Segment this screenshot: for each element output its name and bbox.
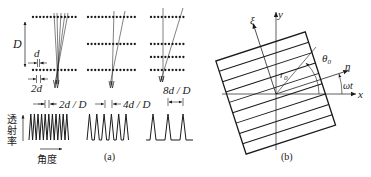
grating-dot	[164, 43, 166, 45]
grating-dot	[175, 43, 177, 45]
panel-b: x y ξ η r0 θ0 ωt (b)	[208, 0, 363, 163]
transmission-curve-2	[87, 114, 129, 140]
grating-dot	[116, 16, 118, 18]
transmission-curves	[29, 114, 193, 140]
grating-dot	[153, 16, 155, 18]
grating-dot	[161, 43, 163, 45]
grating-dot	[171, 16, 173, 18]
label-omega-t: ωt	[343, 80, 353, 91]
grating-dot	[179, 43, 181, 45]
grating-line	[236, 94, 325, 123]
grating-dot	[153, 56, 155, 58]
grating-dot	[43, 16, 45, 18]
label-period-4d-D: 4d / D	[123, 98, 151, 110]
grating-dot	[94, 16, 96, 18]
grating-dot	[150, 56, 152, 58]
grating-dot	[108, 16, 110, 18]
label-xi: ξ	[250, 14, 255, 27]
grating-dot	[105, 43, 107, 45]
panel-a: D d 2d	[6, 8, 194, 165]
grating-dot	[150, 43, 152, 45]
rays-set-2	[109, 11, 125, 88]
grating-dot	[175, 56, 177, 58]
grating-dot	[87, 69, 89, 71]
label-x: x	[357, 88, 363, 100]
grating-dot	[157, 69, 159, 71]
label-eta: η	[345, 60, 350, 72]
grating-dot	[108, 69, 110, 71]
grating-dot	[168, 69, 170, 71]
grating-dot	[164, 69, 166, 71]
grating-dot	[119, 69, 121, 71]
grating-dot	[94, 69, 96, 71]
grating-dot	[74, 16, 76, 18]
grating-dot	[101, 69, 103, 71]
grating-dot	[126, 16, 128, 18]
label-D: D	[12, 37, 22, 51]
grating-dot	[153, 43, 155, 45]
rays-set-1	[54, 13, 69, 88]
grating-dot	[182, 16, 184, 18]
grating-dot	[134, 16, 136, 18]
grating-dot	[168, 16, 170, 18]
grating-dot	[150, 16, 152, 18]
grating-dot	[179, 69, 181, 71]
grating-dot	[164, 56, 166, 58]
d-spacing-arrow	[28, 59, 47, 67]
grating-dot	[35, 69, 37, 71]
grating-dot	[71, 16, 73, 18]
grating-dot	[119, 43, 121, 45]
grating-dot	[182, 69, 184, 71]
grating-dot	[164, 16, 166, 18]
omega-t-arc	[339, 74, 342, 94]
grating-dot	[71, 69, 73, 71]
grating-dot	[101, 43, 103, 45]
grating-dot	[126, 69, 128, 71]
grating-dot	[74, 69, 76, 71]
grating-dot	[39, 69, 41, 71]
grating-dot	[130, 16, 132, 18]
grating-dot	[150, 69, 152, 71]
grating-dot	[171, 69, 173, 71]
grating-dot	[32, 69, 34, 71]
grating-dot	[98, 69, 100, 71]
grating-dot	[182, 56, 184, 58]
grating-dot	[60, 69, 62, 71]
grating-dot	[87, 16, 89, 18]
label-d: d	[34, 47, 40, 59]
grating-line	[233, 84, 322, 113]
grating-dot	[153, 69, 155, 71]
grating-dot	[90, 43, 92, 45]
label-2d: 2d	[31, 82, 43, 94]
grating-dot	[161, 69, 163, 71]
transmission-curve-3	[146, 114, 193, 140]
grating-dot	[179, 56, 181, 58]
grating-dot	[157, 56, 159, 58]
grating-dot	[119, 16, 121, 18]
grating-dot	[116, 43, 118, 45]
grating-dot	[116, 69, 118, 71]
grating-dot	[67, 69, 69, 71]
grating-dot	[161, 56, 163, 58]
grating-dot	[123, 69, 125, 71]
grating-dot	[123, 43, 125, 45]
grating-dot	[161, 16, 163, 18]
grating-dot	[105, 69, 107, 71]
grating-dot	[157, 43, 159, 45]
grating-dot	[87, 43, 89, 45]
grating-dot	[64, 69, 66, 71]
grating-dot	[32, 16, 34, 18]
grating-dot	[168, 43, 170, 45]
grating-dot	[43, 69, 45, 71]
grating-dot	[134, 43, 136, 45]
period-arrow-3	[168, 98, 183, 106]
grating-dot	[157, 16, 159, 18]
grating-dot	[130, 43, 132, 45]
grating-dot	[67, 16, 69, 18]
label-period-2d-D: 2d / D	[59, 98, 87, 110]
caption-a: (a)	[104, 151, 115, 163]
grating-dot	[98, 16, 100, 18]
grating-dot	[50, 69, 52, 71]
grating-dot	[126, 43, 128, 45]
label-r0: r0	[280, 69, 288, 82]
